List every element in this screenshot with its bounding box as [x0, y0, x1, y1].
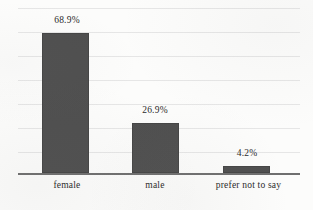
bar-value-female: 68.9% — [22, 15, 112, 25]
bar-value-male: 26.9% — [110, 105, 200, 115]
bar-chart-figure: 68.9% 26.9% 4.2% female male prefer not … — [0, 0, 313, 210]
gridline — [18, 8, 300, 9]
bar-value-prefer-not-to-say: 4.2% — [202, 148, 292, 158]
x-axis-label-male: male — [110, 180, 200, 190]
x-axis-label-prefer-not-to-say: prefer not to say — [196, 180, 301, 190]
bar-male[interactable] — [132, 123, 179, 173]
bar-female[interactable] — [42, 33, 89, 173]
x-axis-label-female: female — [22, 180, 112, 190]
bar-prefer-not-to-say[interactable] — [223, 166, 270, 173]
x-axis-line — [18, 173, 300, 175]
